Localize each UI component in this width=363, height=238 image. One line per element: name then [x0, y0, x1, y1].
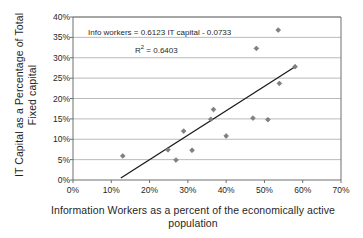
data-point: [277, 81, 282, 86]
data-point: [120, 154, 125, 159]
x-axis-title: Information Workers as a percent of the …: [38, 204, 348, 230]
regression-equation-label: Info workers = 0.6123 IT capital - 0.073…: [88, 27, 231, 38]
data-point: [265, 117, 270, 122]
data-point: [174, 158, 179, 163]
data-point: [181, 129, 186, 134]
data-point: [276, 28, 281, 33]
data-point: [224, 134, 229, 139]
x-axis-tick-labels: 0%10%20%30%40%50%60%70%: [0, 186, 363, 200]
x-tick-label: 40%: [206, 186, 246, 195]
data-point: [251, 116, 256, 121]
x-tick-label: 30%: [168, 186, 208, 195]
gridlines: [73, 17, 341, 160]
data-point: [190, 148, 195, 153]
x-tick-label: 70%: [321, 186, 361, 195]
axis-ticks: [70, 17, 341, 183]
x-tick-label: 50%: [244, 186, 284, 195]
x-tick-label: 60%: [283, 186, 323, 195]
r-squared-label: R2 = 0.6403: [135, 42, 178, 56]
trendline: [121, 67, 295, 178]
data-point: [166, 147, 171, 152]
data-point: [254, 46, 259, 51]
r-squared-value: = 0.6403: [144, 46, 178, 55]
x-tick-label: 20%: [130, 186, 170, 195]
data-point: [211, 107, 216, 112]
scatter-chart: IT Capital as a Percentage of Total Fixe…: [0, 0, 363, 238]
x-tick-label: 10%: [91, 186, 131, 195]
x-tick-label: 0%: [53, 186, 93, 195]
